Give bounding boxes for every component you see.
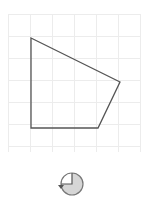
polygon-shape[interactable] xyxy=(31,38,120,128)
rotate-handle[interactable] xyxy=(58,173,83,195)
rotate-quarter xyxy=(62,174,72,184)
drawing-canvas[interactable] xyxy=(0,0,141,204)
grid xyxy=(8,14,141,152)
